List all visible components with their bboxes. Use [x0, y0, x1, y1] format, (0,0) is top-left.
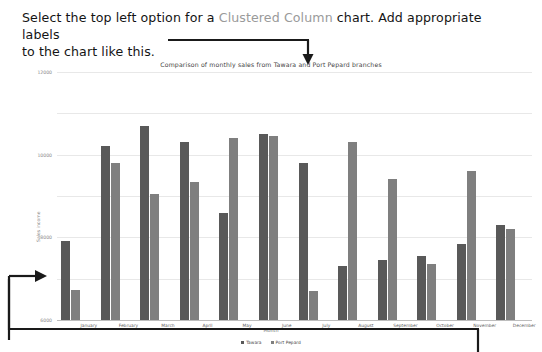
bar-tawara[interactable] [496, 225, 505, 320]
plot-area: 020004000600080001000012000JanuaryFebrua… [57, 72, 532, 320]
bar-port-pepard[interactable] [71, 290, 80, 320]
bar-port-pepard[interactable] [506, 229, 515, 320]
bar-port-pepard[interactable] [190, 182, 199, 320]
bar-tawara[interactable] [101, 146, 110, 320]
bar-port-pepard[interactable] [111, 163, 120, 320]
bar-tawara[interactable] [338, 266, 347, 320]
bar-tawara[interactable] [417, 256, 426, 320]
bar-group: January [57, 72, 97, 320]
instruction-highlight: Clustered Column [219, 10, 333, 25]
bar-group: April [176, 72, 216, 320]
bar-port-pepard[interactable] [427, 264, 436, 320]
bar-group: May [215, 72, 255, 320]
bar-port-pepard[interactable] [309, 291, 318, 320]
x-axis-line: 0 [57, 320, 532, 321]
legend-swatch [271, 341, 274, 344]
legend-item[interactable]: Tawara [241, 340, 261, 345]
bar-port-pepard[interactable] [269, 136, 278, 320]
bar-group: October [413, 72, 453, 320]
bar-port-pepard[interactable] [388, 179, 397, 320]
bar-tawara[interactable] [259, 134, 268, 320]
bar-tawara[interactable] [61, 241, 70, 320]
bar-port-pepard[interactable] [467, 171, 476, 320]
chart-container: Comparison of monthly sales from Tawara … [0, 56, 542, 352]
bar-port-pepard[interactable] [150, 194, 159, 320]
bar-tawara[interactable] [457, 244, 466, 320]
bar-port-pepard[interactable] [348, 142, 357, 320]
bar-group: July [295, 72, 335, 320]
bar-group: March [136, 72, 176, 320]
bar-tawara[interactable] [180, 142, 189, 320]
y-axis-tick-label: 6000 [40, 318, 52, 323]
bar-tawara[interactable] [140, 126, 149, 320]
bar-tawara[interactable] [219, 213, 228, 320]
chart-legend: TawaraPort Pepard [0, 340, 542, 345]
bar-group: November [453, 72, 493, 320]
legend-item[interactable]: Port Pepard [271, 340, 301, 345]
y-axis-tick-label: 8000 [40, 235, 52, 240]
legend-label: Port Pepard [276, 340, 301, 345]
chart-title: Comparison of monthly sales from Tawara … [0, 61, 542, 68]
bar-group: December [492, 72, 532, 320]
legend-label: Tawara [246, 340, 261, 345]
bar-group: August [334, 72, 374, 320]
instruction-text: Select the top left option for a Cluster… [22, 9, 522, 60]
y-axis-tick-label: 10000 [37, 152, 52, 157]
bar-tawara[interactable] [378, 260, 387, 320]
bar-tawara[interactable] [299, 163, 308, 320]
bar-group: September [374, 72, 414, 320]
x-axis-title: Month [0, 328, 542, 333]
y-axis-tick-label: 12000 [37, 70, 52, 75]
bar-group: June [255, 72, 295, 320]
bar-port-pepard[interactable] [229, 138, 238, 320]
instruction-part1: Select the top left option for a [22, 10, 219, 25]
legend-swatch [241, 341, 244, 344]
bar-group: February [97, 72, 137, 320]
